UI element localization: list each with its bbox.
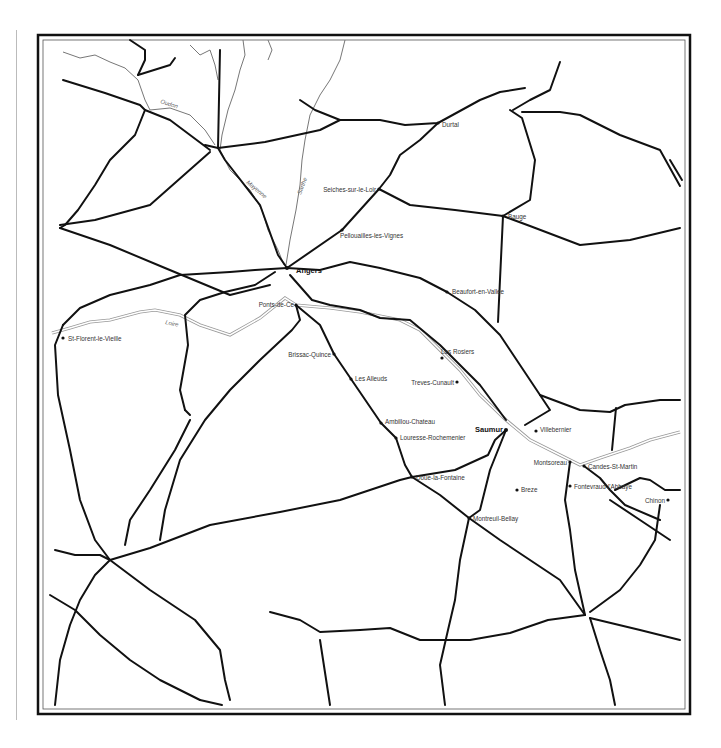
town-dot-icon bbox=[436, 121, 439, 124]
town-dot-icon bbox=[515, 488, 518, 491]
road-line bbox=[612, 408, 616, 450]
river-line bbox=[220, 40, 284, 265]
town-marker: Les Alleuds bbox=[349, 375, 387, 382]
road-line bbox=[525, 395, 550, 425]
town-marker: Treves-Cunault bbox=[411, 379, 458, 386]
town-marker: Les Rosiers bbox=[440, 348, 474, 360]
town-dot-icon bbox=[379, 421, 382, 424]
road-line bbox=[503, 216, 680, 245]
town-marker: Ponts-de-Ce bbox=[259, 301, 298, 308]
road-line bbox=[145, 110, 210, 150]
town-dot-icon bbox=[568, 484, 571, 487]
town-label: Durtal bbox=[442, 121, 459, 128]
town-dot-icon bbox=[568, 460, 571, 463]
town-label: Doue-la-Fontaine bbox=[416, 474, 465, 481]
road-line bbox=[287, 189, 379, 268]
town-marker: St-Florent-le-Vieille bbox=[61, 335, 122, 342]
river-line bbox=[286, 40, 345, 265]
town-label: Angers bbox=[296, 266, 322, 275]
town-label: Beaufort-en-Vallee bbox=[452, 288, 505, 295]
town-dot-icon bbox=[410, 475, 413, 478]
town-marker: Fontevraud-l'Abbaye bbox=[568, 483, 632, 491]
road-line bbox=[540, 395, 680, 412]
road-line bbox=[200, 700, 222, 705]
town-label: Les Rosiers bbox=[441, 348, 474, 355]
town-label: Bauge bbox=[508, 213, 527, 221]
road-map: DurtalSeiches-sur-le-LoirBaugePellouaill… bbox=[0, 0, 721, 748]
town-marker: Beaufort-en-Vallee bbox=[445, 288, 504, 295]
town-marker: Doue-la-Fontaine bbox=[410, 474, 465, 481]
road-line bbox=[522, 112, 680, 186]
road-line bbox=[185, 410, 190, 415]
town-label: Breze bbox=[521, 486, 538, 493]
town-dot-icon bbox=[332, 352, 335, 355]
road-line bbox=[379, 123, 438, 189]
town-marker: Montsoreau bbox=[534, 459, 572, 466]
road-line bbox=[498, 216, 503, 322]
town-marker: Candes-St-Martin bbox=[582, 463, 637, 470]
road-line bbox=[110, 560, 230, 700]
town-label: Villebernier bbox=[540, 426, 571, 433]
road-line bbox=[590, 618, 680, 640]
town-label: Treves-Cunault bbox=[411, 379, 454, 386]
river-line bbox=[190, 45, 218, 80]
town-dot-icon bbox=[504, 428, 508, 432]
town-marker: Chinon bbox=[645, 497, 670, 504]
road-line bbox=[590, 618, 615, 705]
town-dot-icon bbox=[61, 336, 64, 339]
town-marker: Seiches-sur-le-Loir bbox=[323, 186, 380, 193]
road-line bbox=[55, 560, 110, 705]
town-dot-icon bbox=[294, 303, 297, 306]
road-line bbox=[513, 62, 560, 110]
road-line bbox=[300, 100, 340, 120]
road-line bbox=[320, 640, 330, 705]
town-label: St-Florent-le-Vieille bbox=[68, 335, 122, 342]
road-line bbox=[55, 325, 110, 560]
town-marker: Montreuil-Bellay bbox=[467, 515, 519, 523]
town-dot-icon bbox=[582, 464, 585, 467]
town-marker: Louresse-Rochemenier bbox=[394, 434, 465, 441]
road-line bbox=[60, 152, 210, 225]
town-label: Pellouailles-les-Vignes bbox=[340, 232, 403, 240]
town-label: Seiches-sur-le-Loir bbox=[323, 186, 376, 193]
town-label: Candes-St-Martin bbox=[588, 463, 638, 470]
town-label: Ponts-de-Ce bbox=[259, 301, 295, 308]
town-label: Saumur bbox=[475, 425, 503, 434]
road-line bbox=[218, 88, 525, 148]
river-line bbox=[63, 52, 215, 145]
town-dot-icon bbox=[440, 356, 443, 359]
town-dot-icon bbox=[394, 436, 397, 439]
town-label: Chinon bbox=[645, 497, 665, 504]
town-label: Montsoreau bbox=[534, 459, 568, 466]
road-line bbox=[55, 550, 110, 560]
town-marker: Pellouailles-les-Vignes bbox=[340, 228, 403, 240]
town-dot-icon bbox=[377, 187, 380, 190]
town-label: Les Alleuds bbox=[355, 375, 387, 382]
town-label: Fontevraud-l'Abbaye bbox=[574, 483, 632, 491]
town-label: Louresse-Rochemenier bbox=[400, 434, 465, 441]
roads-layer bbox=[50, 40, 682, 705]
town-label: Ambillou-Chateau bbox=[385, 418, 436, 425]
road-line bbox=[138, 58, 175, 75]
road-line bbox=[50, 595, 200, 700]
river-line bbox=[268, 40, 272, 60]
road-line bbox=[60, 228, 270, 295]
road-line bbox=[160, 305, 300, 540]
road-line bbox=[440, 518, 469, 705]
town-dot-icon bbox=[534, 429, 537, 432]
road-line bbox=[270, 612, 585, 640]
town-marker: Villebernier bbox=[534, 426, 571, 433]
road-line bbox=[469, 430, 506, 518]
road-line bbox=[63, 80, 145, 110]
road-line bbox=[180, 272, 275, 410]
town-dot-icon bbox=[445, 290, 448, 293]
road-line bbox=[412, 477, 585, 615]
river-label: Sarthe bbox=[296, 176, 308, 195]
town-dot-icon bbox=[467, 516, 470, 519]
road-line bbox=[218, 50, 287, 268]
town-marker: Ambillou-Chateau bbox=[379, 418, 435, 425]
town-dot-icon bbox=[501, 214, 504, 217]
town-dot-icon bbox=[666, 498, 669, 501]
road-line bbox=[584, 466, 660, 520]
town-dot-icon bbox=[455, 380, 458, 383]
